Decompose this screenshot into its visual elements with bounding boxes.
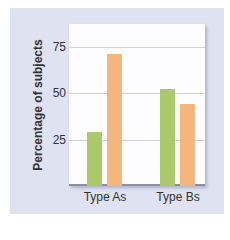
gridline-75 [69, 47, 205, 48]
bar-type-bs-green [160, 89, 175, 186]
y-axis-label: Percentage of subjects [31, 39, 45, 170]
y-tick-75: 75 [44, 40, 66, 54]
x-tick-type-as: Type As [84, 190, 127, 204]
bar-type-bs-orange [180, 104, 195, 186]
bar-type-as-orange [107, 54, 122, 186]
y-tick-50: 50 [44, 86, 66, 100]
bar-type-as-green [87, 132, 102, 186]
y-tick-25: 25 [44, 133, 66, 147]
x-tick-type-bs: Type Bs [156, 190, 199, 204]
gridline-50 [69, 93, 205, 94]
